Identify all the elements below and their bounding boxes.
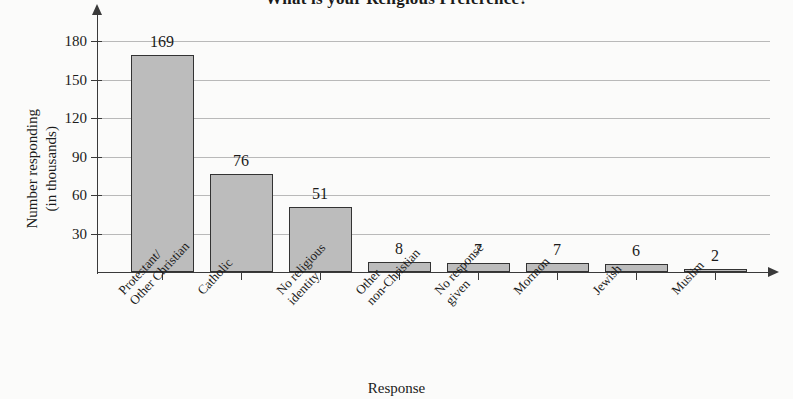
bar-value-label: 2 bbox=[711, 248, 719, 264]
x-axis-line bbox=[97, 272, 769, 273]
bar-value-label: 7 bbox=[553, 242, 561, 258]
y-axis-tick bbox=[91, 118, 102, 119]
gridline bbox=[98, 234, 770, 235]
y-axis-tick-label: 60 bbox=[72, 188, 87, 203]
y-axis-title: Number responding (in thousands) bbox=[23, 69, 61, 269]
y-axis-arrow-icon bbox=[92, 4, 102, 15]
bar-value-label: 6 bbox=[632, 243, 640, 259]
x-axis-tick bbox=[636, 272, 637, 280]
y-axis-tick bbox=[91, 234, 102, 235]
bar-value-label: 169 bbox=[150, 34, 174, 50]
x-axis-title: Response bbox=[0, 380, 793, 397]
plot-area bbox=[98, 20, 770, 272]
gridline bbox=[98, 118, 770, 119]
y-axis-tick bbox=[91, 195, 102, 196]
y-axis-tick bbox=[91, 80, 102, 81]
y-axis-tick bbox=[91, 157, 102, 158]
bar-value-label: 51 bbox=[312, 186, 328, 202]
x-axis-tick bbox=[715, 272, 716, 280]
y-axis-tick bbox=[91, 41, 102, 42]
y-axis-tick-label: 30 bbox=[72, 226, 87, 241]
y-axis-tick-label: 180 bbox=[65, 34, 88, 49]
gridline bbox=[98, 80, 770, 81]
y-axis-tick-label: 90 bbox=[72, 149, 87, 164]
bar bbox=[210, 174, 273, 272]
gridline bbox=[98, 157, 770, 158]
x-axis-tick bbox=[241, 272, 242, 280]
y-axis-line bbox=[97, 12, 98, 274]
y-axis-tick-label: 120 bbox=[65, 111, 88, 126]
y-axis-tick-label: 150 bbox=[65, 72, 88, 87]
gridline bbox=[98, 41, 770, 42]
bar-chart-figure: What is your Religious Preference? Numbe… bbox=[0, 0, 793, 399]
gridline bbox=[98, 195, 770, 196]
x-axis-tick bbox=[557, 272, 558, 280]
bar-value-label: 76 bbox=[233, 153, 249, 169]
chart-title: What is your Religious Preference? bbox=[0, 0, 793, 9]
x-axis-arrow-icon bbox=[768, 267, 779, 277]
